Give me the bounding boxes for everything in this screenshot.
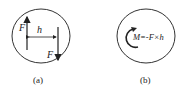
figure-b: M=-F×h (b) (117, 9, 175, 85)
force-left-label: F (18, 22, 26, 33)
force-right-label: F (46, 49, 54, 60)
couple-diagram: F h F (a) M=-F×h (b) (0, 0, 187, 93)
distance-label: h (37, 24, 42, 35)
body-outline (12, 9, 70, 63)
caption-a: (a) (33, 75, 43, 85)
figure-a: F h F (a) (12, 9, 70, 85)
caption-b: (b) (140, 75, 151, 85)
moment-label: M=-F×h (132, 32, 164, 42)
